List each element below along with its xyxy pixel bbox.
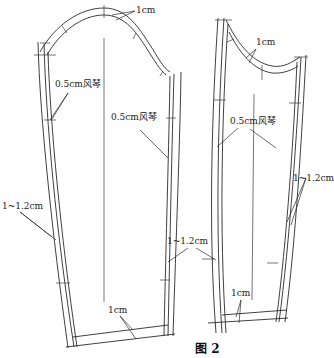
pleat-leader	[217, 128, 276, 148]
right-pleat-leader	[140, 130, 168, 158]
piece2-cap-label: 1cm	[256, 38, 275, 47]
piece2-right-side-allowance-label: 1~1.2cm	[293, 174, 334, 183]
piece1-cap-label: 1cm	[136, 6, 155, 15]
left-outer-edge	[212, 18, 218, 333]
left-inner-edge-1	[44, 44, 74, 347]
left-inner-edge-2	[48, 52, 77, 347]
piece1-right-pleat-label: 0.5cm风琴	[111, 113, 157, 122]
right-outer-edge	[173, 72, 181, 336]
cap-notch	[227, 39, 234, 42]
hem-inner-line	[73, 325, 168, 337]
right-inner-edge-2	[276, 62, 297, 322]
cap-leader	[112, 11, 135, 20]
hem-leader	[120, 316, 136, 339]
cap-notch-2	[133, 33, 136, 39]
side-allowance-leader	[20, 212, 56, 240]
sleeve-front-piece	[20, 5, 181, 348]
cap-notch-3	[160, 71, 163, 76]
sleeve-back-piece	[168, 18, 308, 333]
piece1-hem-label: 1cm	[108, 306, 127, 315]
left-pleat-leader	[50, 93, 68, 120]
piece1-left-pleat-label: 0.5cm风琴	[55, 80, 101, 89]
piece1-side-allowance-label: 1~1.2cm	[2, 202, 43, 211]
piece2-hem-label: 1cm	[231, 289, 250, 298]
cap-inner-curve	[47, 15, 166, 75]
cap-outer-curve	[40, 8, 170, 72]
figure-caption: 图 2	[195, 339, 220, 356]
hem-leader	[236, 300, 241, 323]
piece2-pleat-label: 0.5cm风琴	[230, 117, 276, 126]
cap-notch-1	[62, 26, 67, 33]
piece2-left-side-allowance-label: 1~1.2cm	[167, 237, 208, 246]
left-inner-edge-2	[222, 24, 228, 333]
